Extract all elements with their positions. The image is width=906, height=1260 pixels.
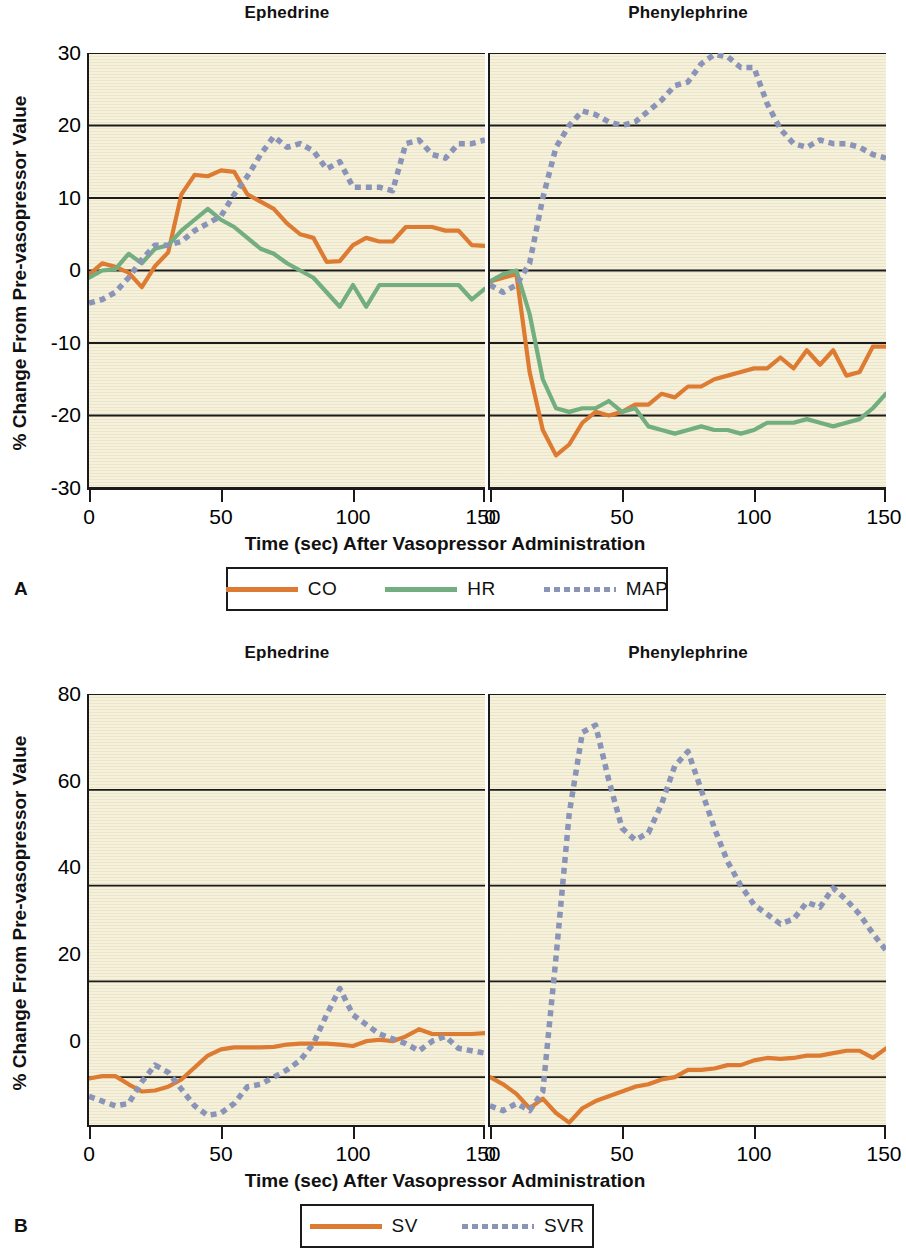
x-tick-a-left-0: 0 — [69, 506, 109, 527]
y-tick-a-20: 20 — [18, 114, 81, 135]
x-axis-spine-b-right — [488, 1125, 886, 1127]
panel-letter-b: B — [14, 1215, 28, 1237]
x-tick-a-left-50: 50 — [196, 506, 246, 527]
legend-label-map: MAP — [626, 578, 669, 600]
x-tick-a-right-0: 0 — [470, 506, 510, 527]
x-tick-a-right-150: 150 — [853, 506, 906, 527]
y-tick-a-0: 0 — [18, 259, 81, 280]
legend-item-map: MAP — [544, 578, 669, 600]
legend-item-svr: SVR — [462, 1215, 585, 1237]
x-tick-b-left-50: 50 — [196, 1143, 246, 1164]
x-tick-mark — [483, 1127, 485, 1139]
subpanel-title-ephedrine-b: Ephedrine — [89, 643, 485, 663]
legend-swatch-sv — [310, 1224, 382, 1229]
plot-area-b-ephedrine — [89, 694, 485, 1125]
series-canvas-b-phenylephrine — [490, 694, 886, 1125]
plot-area-b-phenylephrine — [490, 694, 886, 1125]
x-tick-a-left-100: 100 — [322, 506, 384, 527]
x-tick-b-right-150: 150 — [853, 1143, 906, 1164]
x-tick-mark — [221, 1127, 223, 1139]
legend-swatch-co — [226, 587, 298, 592]
y-axis-spine-b-right — [488, 694, 490, 1127]
x-tick-mark — [622, 490, 624, 502]
series-line-sv — [490, 1048, 886, 1122]
x-tick-a-right-50: 50 — [597, 506, 647, 527]
x-tick-mark — [353, 490, 355, 502]
x-axis-spine-a-right — [488, 488, 886, 490]
x-tick-mark — [622, 1127, 624, 1139]
x-tick-b-right-50: 50 — [597, 1143, 647, 1164]
y-tick-b-80: 80 — [18, 683, 81, 704]
x-tick-b-right-0: 0 — [470, 1143, 510, 1164]
legend-swatch-hr — [385, 587, 457, 592]
x-tick-b-left-100: 100 — [322, 1143, 384, 1164]
x-tick-mark — [884, 1127, 886, 1139]
x-tick-mark — [490, 1127, 492, 1139]
subpanel-title-ephedrine-a: Ephedrine — [89, 3, 485, 23]
x-tick-mark — [754, 490, 756, 502]
legend-item-hr: HR — [385, 578, 495, 600]
series-line-sv — [89, 1029, 485, 1091]
y-tick-b-60: 60 — [18, 770, 81, 791]
series-canvas-a-ephedrine — [89, 53, 485, 488]
legend-label-sv: SV — [392, 1215, 418, 1237]
x-tick-mark — [221, 490, 223, 502]
series-line-map — [490, 54, 886, 292]
y-tick-a-m10: -10 — [14, 332, 81, 353]
y-tick-b-0: 0 — [18, 1030, 81, 1051]
panel-b: Ephedrine Phenylephrine % Change From Pr… — [0, 640, 890, 1260]
legend-swatch-map — [544, 587, 616, 592]
y-tick-a-10: 10 — [18, 187, 81, 208]
legend-swatch-svr — [462, 1224, 534, 1229]
x-tick-mark — [490, 490, 492, 502]
x-axis-spine-a-left — [87, 488, 485, 490]
subpanel-title-phenylephrine-a: Phenylephrine — [490, 3, 886, 23]
series-line-hr — [490, 271, 886, 434]
y-tick-b-20: 20 — [18, 943, 81, 964]
x-tick-b-right-100: 100 — [723, 1143, 785, 1164]
panel-letter-a: A — [14, 578, 28, 600]
series-canvas-a-phenylephrine — [490, 53, 886, 488]
legend-label-hr: HR — [467, 578, 495, 600]
legend-item-co: CO — [226, 578, 338, 600]
x-tick-mark — [89, 1127, 91, 1139]
x-axis-label-a: Time (sec) After Vasopressor Administrat… — [0, 533, 890, 555]
legend-a: CO HR MAP — [226, 567, 668, 611]
y-axis-label-b: % Change From Pre-vasopressor Value — [9, 678, 31, 1148]
y-axis-spine-b-left — [87, 694, 89, 1127]
x-tick-b-left-0: 0 — [69, 1143, 109, 1164]
x-tick-a-right-100: 100 — [723, 506, 785, 527]
plot-area-a-phenylephrine — [490, 53, 886, 488]
y-axis-spine-a-left — [87, 53, 89, 490]
legend-label-svr: SVR — [544, 1215, 585, 1237]
legend-item-sv: SV — [310, 1215, 418, 1237]
y-tick-b-40: 40 — [18, 856, 81, 877]
y-tick-a-m20: -20 — [14, 404, 81, 425]
x-axis-label-b: Time (sec) After Vasopressor Administrat… — [0, 1170, 890, 1192]
legend-label-co: CO — [308, 578, 338, 600]
x-axis-spine-b-left — [87, 1125, 485, 1127]
x-tick-mark — [884, 490, 886, 502]
y-axis-spine-a-right — [488, 53, 490, 490]
series-canvas-b-ephedrine — [89, 694, 485, 1125]
plot-area-a-ephedrine — [89, 53, 485, 488]
legend-b: SV SVR — [300, 1204, 594, 1248]
x-tick-mark — [483, 490, 485, 502]
y-tick-a-m30: -30 — [14, 477, 81, 498]
subpanel-title-phenylephrine-b: Phenylephrine — [490, 643, 886, 663]
x-tick-mark — [353, 1127, 355, 1139]
panel-a: Ephedrine Phenylephrine % Change From Pr… — [0, 0, 890, 620]
series-line-svr — [89, 989, 485, 1116]
x-tick-mark — [754, 1127, 756, 1139]
y-tick-a-30: 30 — [18, 42, 81, 63]
x-tick-mark — [89, 490, 91, 502]
